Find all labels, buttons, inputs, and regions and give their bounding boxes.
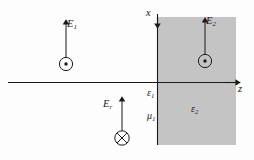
circle-dot-icon-incident	[59, 57, 72, 70]
circle-dot-icon-transmitted	[198, 54, 211, 67]
transmitted-field-label: E2	[206, 16, 216, 28]
incident-field-label: E1	[67, 19, 77, 31]
permittivity-medium-2-label: ε2	[191, 104, 198, 116]
medium-2-shaded-region	[158, 17, 236, 145]
permeability-medium-1-label: μ1	[147, 111, 155, 123]
reflected-field-label: Er	[103, 99, 112, 111]
physics-diagram: x z E1 E2 Er ε1 μ1 ε2	[0, 0, 254, 160]
z-axis-label: z	[238, 84, 242, 95]
x-axis-label: x	[146, 8, 151, 19]
circle-cross-icon-reflected	[115, 131, 129, 145]
permittivity-medium-1-label: ε1	[147, 88, 154, 100]
